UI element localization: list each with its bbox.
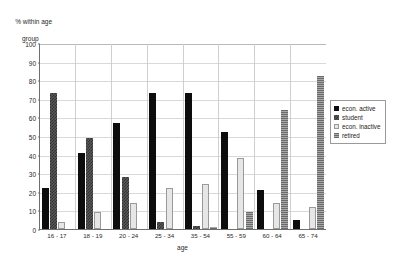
x-axis-title: age: [39, 244, 326, 251]
legend-label: econ. active: [342, 104, 376, 113]
x-axis-tick-label: 60 - 64: [254, 232, 290, 239]
x-axis-tick-label: 25 - 34: [147, 232, 183, 239]
bar-group: [219, 44, 255, 229]
bar: [281, 110, 288, 229]
bar: [78, 153, 85, 229]
legend-item[interactable]: retired: [334, 131, 381, 140]
bar: [166, 188, 173, 229]
bar: [94, 212, 101, 229]
bar-group: [148, 44, 184, 229]
bar: [149, 93, 156, 229]
x-axis-tick-label: 65 - 74: [290, 232, 326, 239]
bar: [50, 93, 57, 229]
legend-label: student: [342, 113, 363, 122]
x-axis-tick-label: 16 - 17: [39, 232, 75, 239]
plot-area: 0102030405060708090100: [39, 44, 326, 230]
bar-group: [255, 44, 291, 229]
bar: [157, 222, 164, 229]
y-axis-tick-mark: [38, 230, 40, 231]
bar: [193, 226, 200, 229]
bar: [130, 203, 137, 229]
chart-root: % within age group 010203040506070809010…: [0, 0, 408, 263]
bar: [42, 188, 49, 229]
x-axis-tick-label: 55 - 59: [218, 232, 254, 239]
bar-group: [291, 44, 326, 229]
bar-group: [112, 44, 148, 229]
bar: [185, 93, 192, 229]
x-axis-tick-labels: 16 - 1718 - 1920 - 2425 - 3435 - 5455 - …: [39, 232, 326, 239]
bar: [221, 132, 228, 229]
x-axis-tick-label: 20 - 24: [111, 232, 147, 239]
bar: [309, 207, 316, 229]
legend-item[interactable]: econ. active: [334, 104, 381, 113]
bar: [58, 222, 65, 229]
bar: [273, 203, 280, 229]
bar: [86, 138, 93, 229]
x-axis-tick-label: 35 - 54: [183, 232, 219, 239]
bar-groups: [40, 44, 326, 229]
bar: [293, 220, 300, 229]
legend-swatch-icon: [334, 124, 339, 129]
legend-item[interactable]: student: [334, 113, 381, 122]
bar: [317, 76, 324, 229]
bar: [257, 190, 264, 229]
legend-swatch-icon: [334, 106, 339, 111]
legend-label: econ. inactive: [342, 122, 381, 131]
legend-swatch-icon: [334, 133, 339, 138]
legend-swatch-icon: [334, 115, 339, 120]
bar: [113, 123, 120, 229]
bar: [202, 184, 209, 229]
bar-group: [184, 44, 220, 229]
bar-group: [40, 44, 76, 229]
bar-group: [76, 44, 112, 229]
legend-label: retired: [342, 131, 360, 140]
legend: econ. activestudentecon. inactiveretired: [330, 100, 386, 144]
legend-item[interactable]: econ. inactive: [334, 122, 381, 131]
x-axis-tick-label: 18 - 19: [75, 232, 111, 239]
bar: [122, 177, 129, 229]
bar: [237, 158, 244, 229]
bar: [210, 227, 217, 229]
bar: [246, 212, 253, 229]
y-axis-label-line1: % within age: [15, 18, 52, 25]
